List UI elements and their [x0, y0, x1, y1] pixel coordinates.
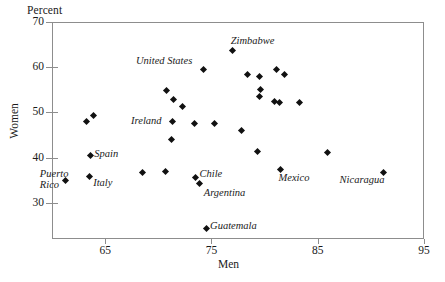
y-tick-label: 70: [20, 16, 44, 28]
point-label: Chile: [199, 168, 222, 179]
point-label: Argentina: [204, 187, 246, 198]
x-tick-label: 75: [196, 245, 226, 257]
x-tick-label: 65: [90, 245, 120, 257]
y-tick-label: 60: [20, 61, 44, 73]
point-label: Ireland: [131, 115, 162, 126]
y-tick-mark-inner: [53, 158, 58, 159]
x-tick-label: 85: [303, 245, 333, 257]
scatter-plot-figure: Percent Women Men 706050403065758595 Zim…: [0, 0, 445, 282]
y-tick-mark: [46, 158, 52, 159]
point-label: Puerto: [40, 168, 69, 179]
y-tick-mark: [46, 67, 52, 68]
y-tick-label: 40: [20, 152, 44, 164]
y-tick-mark-inner: [53, 203, 58, 204]
x-tick-label: 95: [409, 245, 439, 257]
point-label: Zimbabwe: [231, 35, 275, 46]
point-label: United States: [136, 55, 192, 66]
point-label: Nicaragua: [340, 174, 385, 185]
point-label: Italy: [93, 177, 112, 188]
point-label: Spain: [94, 148, 118, 159]
point-label: Guatemala: [210, 220, 257, 231]
y-tick-label: 30: [20, 197, 44, 209]
y-axis-title: Women: [8, 91, 20, 151]
x-axis-title-text: Men: [218, 258, 239, 270]
point-label: Rico: [40, 179, 59, 190]
y-tick-label: 50: [20, 106, 44, 118]
y-tick-mark-inner: [53, 112, 58, 113]
point-label: Mexico: [279, 172, 310, 183]
y-tick-mark: [46, 203, 52, 204]
x-axis-title: Men: [0, 258, 445, 270]
y-tick-mark: [46, 22, 52, 23]
y-tick-mark-inner: [53, 67, 58, 68]
y-tick-mark: [46, 112, 52, 113]
